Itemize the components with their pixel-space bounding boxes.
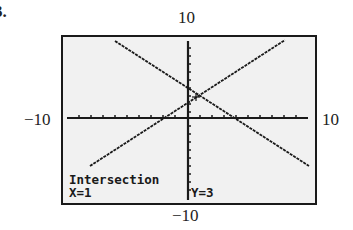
intersection-x-value: X=1 [69, 185, 92, 200]
calculator-graph-screen: Intersection X=1 Y=3 [0, 0, 353, 230]
intersection-y-value: Y=3 [191, 185, 214, 200]
